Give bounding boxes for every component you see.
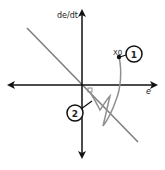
marker-2-label: 2 — [72, 109, 78, 119]
marker-1-label: 1 — [131, 50, 137, 60]
phase-plane-diagram: X0 1 2 de/dt e — [0, 0, 165, 170]
trajectory-curve — [90, 57, 121, 126]
initial-point-label: X0 — [113, 49, 122, 57]
x-axis-label: e — [146, 87, 151, 96]
y-axis-label: de/dt — [57, 11, 78, 20]
